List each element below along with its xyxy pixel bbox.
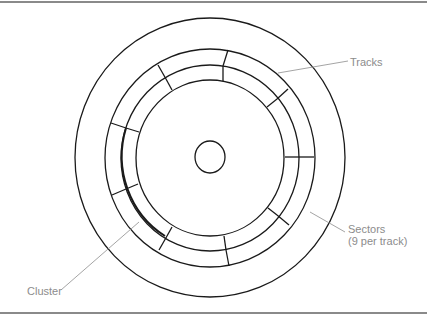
sector-line [268,208,277,215]
tracks-leader-line [278,61,348,73]
spindle-hole [195,141,225,173]
sector-line [267,99,277,107]
sector-line [112,189,126,195]
sector-line [277,215,289,225]
cluster-leader-line [61,222,139,290]
cluster-label: Cluster [27,285,62,297]
sector-line [224,236,226,250]
sector-line [166,79,172,90]
sectors-label-line2: (9 per track) [348,235,407,247]
sectors-label: Sectors (9 per track) [348,223,407,247]
sectors-leader-line [310,212,345,232]
sector-line [126,128,139,132]
sector-line [158,65,166,79]
sector-line [223,50,228,66]
sector-line [111,123,126,128]
sector-line [226,250,229,266]
sector-line [167,227,172,236]
disk-diagram [0,0,427,319]
track-inner-ring [136,80,284,236]
tracks-label: Tracks [350,56,383,68]
sector-line [277,89,288,99]
sector-line [159,236,167,250]
sectors-label-line1: Sectors [348,223,407,235]
